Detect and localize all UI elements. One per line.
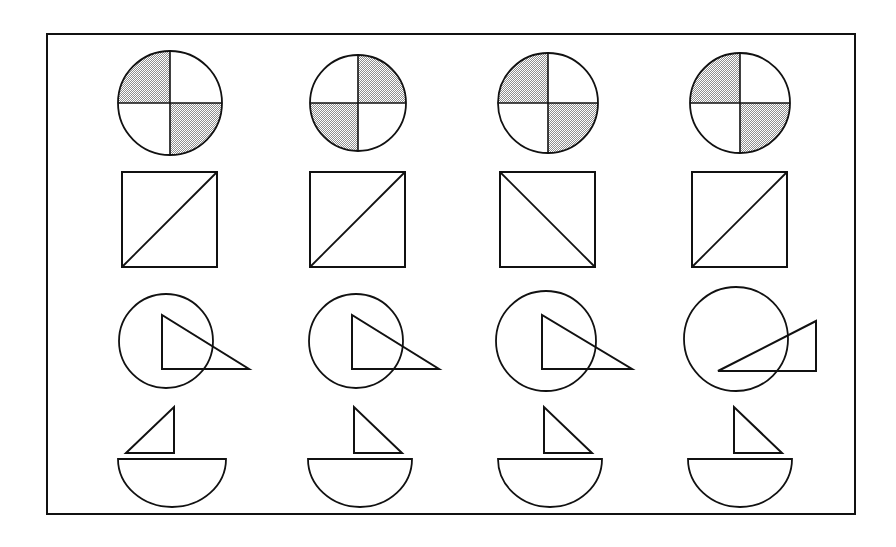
cell-r1c3 [488, 43, 678, 163]
cell-r3c2 [298, 283, 488, 403]
cell-r2c1 [108, 163, 298, 283]
cell-r3c1 [108, 283, 298, 403]
cell-r1c1 [108, 43, 298, 163]
cell-r2c4 [678, 163, 868, 283]
worksheet-page: Quartered circles with two shaded quadra… [0, 0, 896, 547]
cell-r4c3 [488, 403, 678, 523]
cell-r1c2 [298, 43, 488, 163]
cell-r2c3 [488, 163, 678, 283]
cell-r2c2 [298, 163, 488, 283]
cell-r4c4 [678, 403, 868, 523]
cell-r4c1 [108, 403, 298, 523]
cell-r4c2 [298, 403, 488, 523]
cell-r1c4 [678, 43, 868, 163]
outer-frame: Quartered circles with two shaded quadra… [46, 33, 856, 515]
cell-r3c3 [488, 283, 678, 403]
cell-r3c4 [678, 283, 868, 403]
